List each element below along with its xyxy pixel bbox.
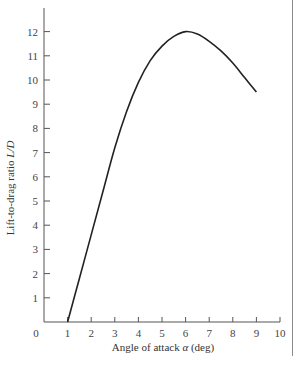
y-tick-label: 7 [33, 147, 39, 159]
y-tick-label: 5 [33, 195, 39, 207]
x-tick-label: 9 [254, 327, 260, 339]
y-tick-label: 2 [33, 268, 39, 280]
y-tick-label: 4 [33, 219, 39, 231]
y-axis-label: Lift-to-drag ratio L/D [4, 141, 16, 236]
y-tick-label: 8 [33, 122, 39, 134]
page-border-line [292, 0, 293, 356]
x-tick-label: 4 [136, 327, 142, 339]
x-axis-label: Angle of attack α (deg) [112, 341, 215, 354]
ld-curve [68, 32, 257, 322]
y-tick-label: 9 [33, 98, 39, 110]
x-tick-label: 0 [33, 327, 39, 339]
x-tick-label: 6 [183, 327, 189, 339]
axes [44, 8, 280, 322]
y-tick-label: 3 [33, 243, 39, 255]
y-tick-label: 6 [33, 171, 39, 183]
lift-to-drag-chart: 012345678910 123456789101112 Angle of at… [0, 0, 302, 365]
x-tick-label: 8 [230, 327, 236, 339]
y-tick-label: 1 [33, 292, 39, 304]
x-tick-label: 7 [206, 327, 212, 339]
x-tick-label: 5 [159, 327, 165, 339]
x-axis-ticks: 012345678910 [33, 317, 286, 339]
x-tick-label: 1 [65, 327, 71, 339]
x-tick-label: 3 [112, 327, 118, 339]
x-tick-label: 10 [275, 327, 287, 339]
y-tick-label: 12 [27, 26, 38, 38]
y-axis-ticks: 123456789101112 [27, 26, 50, 304]
y-tick-label: 10 [27, 74, 39, 86]
x-tick-label: 2 [88, 327, 94, 339]
y-tick-label: 11 [27, 50, 38, 62]
